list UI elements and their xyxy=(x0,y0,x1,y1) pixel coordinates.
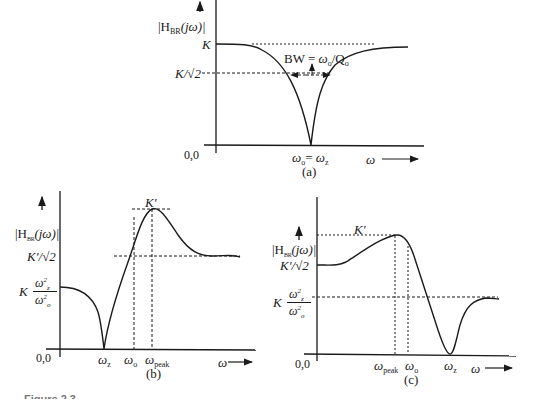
panel-c-x-tick-omega-z: ωz xyxy=(444,359,457,375)
panel-c xyxy=(299,197,516,368)
x-tick-omega1: ω xyxy=(292,150,301,165)
tick-sub: peak xyxy=(383,366,398,375)
tick-omega: ω xyxy=(405,358,414,373)
den-sup: 2 xyxy=(297,304,301,312)
panel-b-y-axis-label: |HBR(jω)| xyxy=(15,227,59,242)
panel-c-x-axis-label: ω xyxy=(471,362,480,375)
tick-omega: ω xyxy=(98,352,107,367)
tick-sub: z xyxy=(107,360,111,369)
tick-sub: o xyxy=(133,360,137,369)
panel-c-x-axis xyxy=(304,354,516,356)
num-sup: 2 xyxy=(297,287,301,295)
bw-omega: ω xyxy=(319,51,328,66)
panel-c-caption: (c) xyxy=(404,373,418,386)
panel-b-curve xyxy=(60,209,240,349)
hf-numerator: ω2z xyxy=(289,287,304,303)
y-label-prefix: |H xyxy=(15,226,27,241)
x-tick-omega2: ω xyxy=(316,150,325,165)
panel-a-tick-k: K xyxy=(202,38,211,51)
y-label-prefix: |H xyxy=(158,19,170,34)
tick-omega: ω xyxy=(444,358,453,373)
panel-b-tick-dc-gain: K ω2z ω2o xyxy=(19,276,59,310)
panel-a-x-axis-label: ω xyxy=(366,153,375,166)
panel-b-tick-k-prime: K′ xyxy=(145,196,157,209)
fraction-bar xyxy=(33,291,57,292)
tick-omega: ω xyxy=(124,352,133,367)
hf-k: K xyxy=(273,295,282,311)
panel-b-x-axis-label: ω xyxy=(218,356,227,369)
panel-a-y-axis-label: |HBR(jω)| xyxy=(158,20,206,36)
bw-prefix: BW = xyxy=(284,51,319,66)
panel-b-origin: 0,0 xyxy=(36,352,51,364)
fraction-bar xyxy=(287,302,311,303)
tick-omega: ω xyxy=(374,358,383,373)
y-label-suffix: (jω)| xyxy=(34,226,59,241)
dc-numerator: ω2z xyxy=(35,276,50,292)
den-sup: 2 xyxy=(43,293,47,301)
panel-c-origin: 0,0 xyxy=(295,358,310,370)
panel-b-x-axis xyxy=(46,349,256,350)
y-label-sub: BR xyxy=(170,27,181,36)
dc-denominator: ω2o xyxy=(35,293,50,309)
panel-c-tick-k-prime-sqrt2: K′/√2 xyxy=(280,259,309,272)
den-sub: o xyxy=(301,312,305,320)
panel-a-caption: (a) xyxy=(302,165,316,178)
panel-b-x-tick-omega-z: ωz xyxy=(98,353,111,369)
panel-b xyxy=(42,191,256,362)
panel-a-x-axis xyxy=(204,145,424,146)
panel-a-tick-k-sqrt2: K/√2 xyxy=(175,67,201,80)
figure-canvas xyxy=(0,0,533,404)
hf-denominator: ω2o xyxy=(289,304,304,320)
y-label-prefix: |H xyxy=(272,242,284,257)
panel-c-tick-hf-gain: K ω2z ω2o xyxy=(273,287,313,321)
panel-b-caption: (b) xyxy=(146,367,161,380)
num-sup: 2 xyxy=(43,276,47,284)
bw-mid: /Q xyxy=(332,51,345,66)
panel-a-origin: 0,0 xyxy=(184,149,199,161)
tick-omega: ω xyxy=(145,352,154,367)
bw-q-sub: o xyxy=(345,59,349,68)
y-label-suffix: (jω)| xyxy=(291,242,316,257)
y-label-suffix: (jω)| xyxy=(181,19,206,34)
panel-a-bw-annotation: BW = ωo/Qo xyxy=(284,52,349,68)
dc-k: K xyxy=(19,284,28,300)
tick-sub: z xyxy=(453,366,457,375)
x-tick-sub2: z xyxy=(325,158,329,167)
panel-c-y-axis-label: |HBR(jω)| xyxy=(272,243,316,258)
x-tick-eq: = xyxy=(305,150,316,165)
panel-c-tick-k-prime: K′ xyxy=(354,223,366,236)
panel-a xyxy=(200,0,424,159)
panel-c-x-tick-omega-peak: ωpeak xyxy=(374,359,398,375)
panel-b-x-tick-omega-o: ωo xyxy=(124,353,137,369)
den-sub: o xyxy=(47,301,51,309)
panel-b-tick-k-prime-sqrt2: K′/√2 xyxy=(27,250,56,263)
